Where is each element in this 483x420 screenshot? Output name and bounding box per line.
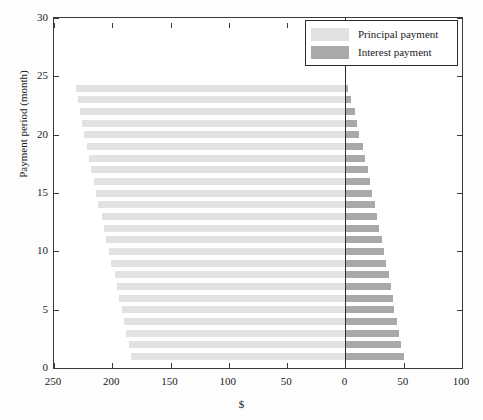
bar-interest-month-2 [345,341,401,348]
bar-interest-month-10 [345,248,383,255]
plot-area [54,18,462,368]
bar-principal-month-8 [115,271,346,278]
x-tick-150-2 [171,363,172,368]
y-tick-5 [54,310,59,311]
bar-interest-month-5 [345,306,394,313]
bar-principal-month-13 [102,213,346,220]
bar-principal-month-22 [80,108,346,115]
x-tick-50-4 [287,363,288,368]
y-tick-label-5: 5 [24,303,48,315]
bar-interest-month-7 [345,283,390,290]
bar-principal-month-19 [87,143,346,150]
x-tick-label-3: 100 [220,375,237,387]
y-tick-right-0 [457,368,462,369]
x-tick-label-7: 100 [453,375,470,387]
x-tick-label-1: 200 [103,375,120,387]
x-tick-top-0 [54,23,55,28]
legend-item-interest: Interest payment [311,43,452,61]
y-tick-right-5 [457,310,462,311]
bar-principal-month-6 [119,295,345,302]
y-tick-right-20 [457,135,462,136]
legend-label-principal: Principal payment [358,28,438,40]
x-tick-top-7 [462,23,463,28]
bar-principal-month-11 [106,236,345,243]
bar-interest-month-12 [345,225,379,232]
bar-principal-month-1 [131,353,345,360]
y-tick-25 [54,76,59,77]
x-tick-200-1 [112,363,113,368]
bar-interest-month-6 [345,295,393,302]
y-tick-label-30: 30 [24,11,48,23]
legend-label-interest: Interest payment [358,46,432,58]
x-tick-label-5: 0 [342,375,348,387]
bar-interest-month-17 [345,166,367,173]
bar-principal-month-20 [84,131,345,138]
y-tick-20 [54,135,59,136]
x-tick-top-1 [112,23,113,28]
bar-interest-month-18 [345,155,365,162]
bar-interest-month-11 [345,236,381,243]
bar-principal-month-9 [111,260,345,267]
zero-reference-line [345,18,347,368]
bar-interest-month-8 [345,271,388,278]
bar-principal-month-16 [94,178,346,185]
x-tick-0-5 [345,363,346,368]
y-tick-10 [54,251,59,252]
figure: Principal payment Interest payment $ Pay… [0,0,483,420]
x-tick-top-2 [171,23,172,28]
bar-interest-month-20 [345,131,359,138]
bar-principal-month-15 [96,190,345,197]
bar-interest-month-4 [345,318,396,325]
bar-interest-month-3 [345,330,399,337]
y-tick-15 [54,193,59,194]
y-tick-right-30 [457,18,462,19]
bar-principal-month-21 [82,120,345,127]
y-tick-label-25: 25 [24,69,48,81]
bar-principal-month-18 [89,155,345,162]
bar-interest-month-14 [345,201,374,208]
bar-interest-month-9 [345,260,386,267]
bar-interest-month-1 [345,353,403,360]
bar-principal-month-7 [117,283,345,290]
x-tick-100-3 [229,363,230,368]
bar-interest-month-23 [345,96,351,103]
x-tick-50-6 [404,363,405,368]
bar-interest-month-16 [345,178,369,185]
y-tick-30 [54,18,59,19]
y-tick-right-25 [457,76,462,77]
bar-principal-month-17 [91,166,345,173]
bar-principal-month-4 [124,318,345,325]
bar-interest-month-21 [345,120,357,127]
y-tick-label-15: 15 [24,186,48,198]
legend-swatch-principal-icon [311,28,349,41]
legend-item-principal: Principal payment [311,25,452,43]
y-tick-0 [54,368,59,369]
bar-interest-month-15 [345,190,372,197]
x-tick-100-7 [462,363,463,368]
bar-interest-month-19 [345,143,362,150]
y-tick-right-15 [457,193,462,194]
bar-principal-month-24 [76,85,345,92]
x-tick-label-6: 50 [397,375,408,387]
x-tick-label-2: 150 [161,375,178,387]
bar-principal-month-12 [104,225,345,232]
x-axis-title: $ [0,398,483,410]
x-tick-top-4 [287,23,288,28]
bar-interest-month-22 [345,108,354,115]
x-tick-label-0: 250 [45,375,62,387]
bar-principal-month-2 [129,341,346,348]
legend-swatch-interest-icon [311,46,349,59]
x-tick-label-4: 50 [281,375,292,387]
y-tick-label-10: 10 [24,244,48,256]
plot-frame [53,17,463,369]
y-tick-right-10 [457,251,462,252]
bar-principal-month-23 [78,96,345,103]
x-tick-top-3 [229,23,230,28]
bar-principal-month-10 [109,248,346,255]
bar-principal-month-14 [98,201,345,208]
y-tick-label-20: 20 [24,128,48,140]
y-tick-label-0: 0 [24,361,48,373]
bar-principal-month-3 [126,330,345,337]
bar-principal-month-5 [122,306,346,313]
chart-legend: Principal payment Interest payment [305,20,458,66]
